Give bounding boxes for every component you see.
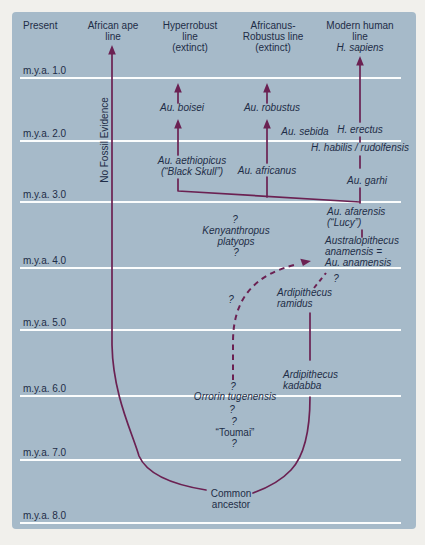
au-sebida-label-line: Au. sebida <box>281 126 328 137</box>
ardipithecus-kadabba-label: Ardipithecuskadabba <box>283 369 338 391</box>
au-aethiopicus-label-line: Au. aethiopicus <box>158 155 226 166</box>
header-africanus-robustus-line: Africanus-Robustus line(extinct) <box>243 20 304 53</box>
header-hyperrobust-line-line: Hyperrobust <box>163 20 217 31</box>
question-ramidus-link-line: ? <box>333 273 339 284</box>
header-african-ape-line-line: line <box>88 31 139 42</box>
header-africanus-robustus-line-line: Africanus- <box>243 20 304 31</box>
question-toumai-bottom-line: ? <box>231 438 237 449</box>
au-garhi-label: Au. garhi <box>347 175 387 186</box>
question-dashed-curve: ? <box>228 294 234 305</box>
timeline-label: m.y.a. 3.0 <box>23 189 66 200</box>
header-africanus-robustus-line-line: (extinct) <box>243 42 304 53</box>
phylogeny-lines-layer <box>0 0 425 545</box>
no-fossil-evidence-label: No Fossil Evidence <box>99 97 110 183</box>
common-ancestor-label-line: ancestor <box>211 499 252 510</box>
question-toumai-top: ? <box>231 416 237 427</box>
question-kenyanthropus-top: ? <box>232 214 238 225</box>
header-h-sapiens-line: H. sapiens <box>336 42 383 53</box>
au-boisei-label: Au. boisei <box>160 102 204 113</box>
timeline-label: m.y.a. 4.0 <box>23 255 66 266</box>
au-aethiopicus-label: Au. aethiopicus(“Black Skull”) <box>158 155 226 177</box>
aethiopicus-branch-line <box>178 179 360 202</box>
header-african-ape-line: African apeline <box>88 20 139 42</box>
question-kenyanthropus-bottom-line: ? <box>233 247 239 258</box>
header-hyperrobust-line-line: line <box>163 31 217 42</box>
question-orrorin-bottom: ? <box>229 404 235 415</box>
timeline-label: m.y.a. 5.0 <box>23 317 66 328</box>
au-aethiopicus-label-line: (“Black Skull”) <box>158 166 226 177</box>
question-toumai-bottom: ? <box>231 438 237 449</box>
orrorin-tugenensis-label: Orrorin tugenensis <box>194 391 276 402</box>
question-kenyanthropus-top-line: ? <box>232 214 238 225</box>
timeline-label: m.y.a. 1.0 <box>23 65 66 76</box>
ardipithecus-kadabba-label-line: kadabba <box>283 380 338 391</box>
evolution-timeline-diagram: m.y.a. 1.0m.y.a. 2.0m.y.a. 3.0m.y.a. 4.0… <box>0 0 425 545</box>
header-present: Present <box>23 20 57 31</box>
ardipithecus-ramidus-label-line: Ardipithecus <box>277 287 332 298</box>
ardipithecus-ramidus-label-line: ramidus <box>277 298 332 309</box>
h-habilis-rudolfensis-label: H. habilis / rudolfensis <box>311 142 409 153</box>
header-modern-human-line-line: Modern human <box>326 20 393 31</box>
header-african-ape-line-line: African ape <box>88 20 139 31</box>
australopithecus-anamensis-label-line: anamensis = <box>325 246 399 257</box>
header-h-sapiens: H. sapiens <box>336 42 383 53</box>
question-toumai-top-line: ? <box>231 416 237 427</box>
timeline-label: m.y.a. 6.0 <box>23 383 66 394</box>
au-garhi-label-line: Au. garhi <box>347 175 387 186</box>
au-robustus-label-line: Au. robustus <box>244 102 300 113</box>
kenyanthropus-platyops-label: Kenyanthropusplatyops <box>202 225 269 247</box>
african-ape-arrowhead <box>108 45 116 55</box>
au-africanus-label: Au. africanus <box>238 165 296 176</box>
au-afarensis-lucy-label: Au. afarensis(“Lucy”) <box>327 206 385 228</box>
ramidus-anamensis-dashed-link <box>314 273 326 288</box>
australopithecus-anamensis-label-line: Australopithecus <box>325 235 399 246</box>
no-fossil-evidence-label-line: No Fossil Evidence <box>99 97 110 183</box>
header-present-line: Present <box>23 20 57 31</box>
uncertain-dashed-curve <box>233 264 298 380</box>
h-habilis-rudolfensis-label-line: H. habilis / rudolfensis <box>311 142 409 153</box>
header-modern-human-line-line: line <box>326 31 393 42</box>
common-ancestor-label-line: Common <box>211 488 252 499</box>
timeline-label: m.y.a. 2.0 <box>23 128 66 139</box>
header-hyperrobust-line-line: (extinct) <box>163 42 217 53</box>
question-ramidus-link: ? <box>333 273 339 284</box>
common-ancestor-label: Commonancestor <box>211 488 252 510</box>
au-sebida-label: Au. sebida <box>281 126 328 137</box>
robustus-top-arrowhead <box>263 83 271 93</box>
australopithecus-anamensis-label-line: Au. anamensis <box>325 257 399 268</box>
header-modern-human-line: Modern humanline <box>326 20 393 42</box>
toumai-label-line: “Toumai” <box>216 427 255 438</box>
boisei-top-arrowhead <box>174 83 182 93</box>
dashed-curve-arrowhead <box>300 259 311 266</box>
modern-human-arrowhead <box>356 56 364 66</box>
header-africanus-robustus-line-line: Robustus line <box>243 31 304 42</box>
common-ancestor-to-kadabba-line <box>253 397 310 493</box>
timeline-label: m.y.a. 7.0 <box>23 447 66 458</box>
toumai-label: “Toumai” <box>216 427 255 438</box>
ardipithecus-ramidus-label: Ardipithecusramidus <box>277 287 332 309</box>
h-erectus-label: H. erectus <box>337 124 383 135</box>
timeline-label: m.y.a. 8.0 <box>23 510 66 521</box>
au-afarensis-lucy-label-line: Au. afarensis <box>327 206 385 217</box>
ardipithecus-kadabba-label-line: Ardipithecus <box>283 369 338 380</box>
boisei-mid-arrowhead <box>174 119 182 129</box>
question-orrorin-bottom-line: ? <box>229 404 235 415</box>
kenyanthropus-platyops-label-line: Kenyanthropus <box>202 225 269 236</box>
header-hyperrobust-line: Hyperrobustline(extinct) <box>163 20 217 53</box>
au-afarensis-lucy-label-line: (“Lucy”) <box>327 217 385 228</box>
h-erectus-label-line: H. erectus <box>337 124 383 135</box>
au-boisei-label-line: Au. boisei <box>160 102 204 113</box>
african-ape-line <box>112 51 206 490</box>
au-robustus-label: Au. robustus <box>244 102 300 113</box>
orrorin-tugenensis-label-line: Orrorin tugenensis <box>194 391 276 402</box>
kenyanthropus-platyops-label-line: platyops <box>202 236 269 247</box>
question-dashed-curve-line: ? <box>228 294 234 305</box>
australopithecus-anamensis-label: Australopithecusanamensis =Au. anamensis <box>325 235 399 268</box>
au-africanus-label-line: Au. africanus <box>238 165 296 176</box>
robustus-mid-arrowhead <box>263 119 271 129</box>
question-kenyanthropus-bottom: ? <box>233 247 239 258</box>
